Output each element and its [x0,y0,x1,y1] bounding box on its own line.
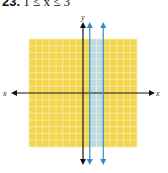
inequality-graph: x x y [0,0,168,173]
x-axis-label-right: x [155,89,160,98]
y-axis-label: y [80,13,85,22]
x-axis-label-left: x [2,89,7,98]
